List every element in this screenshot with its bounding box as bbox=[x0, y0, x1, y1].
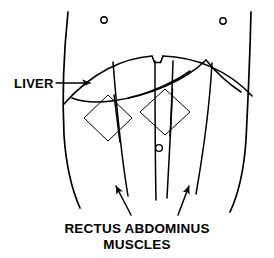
rectus-line-4-lateral-right bbox=[196, 63, 212, 194]
body-outline-left-flank bbox=[63, 12, 80, 208]
costal-margin-left-arc bbox=[64, 56, 152, 104]
body-outline-right-flank bbox=[230, 12, 251, 212]
arrow-to-right-rectus bbox=[178, 186, 189, 215]
anatomy-illustration: LIVER RECTUS ABDOMINUS MUSCLES bbox=[0, 0, 274, 258]
arrow-to-left-rectus bbox=[116, 186, 131, 215]
anatomy-figure: LIVER RECTUS ABDOMINUS MUSCLES bbox=[0, 0, 274, 258]
nipple-marker-left bbox=[101, 17, 107, 23]
navel-marker bbox=[156, 145, 163, 152]
hatch-patch-right bbox=[140, 89, 190, 135]
xiphoid-notch bbox=[152, 56, 163, 63]
rectus-label-line-1: RECTUS ABDOMINUS bbox=[64, 221, 209, 236]
rectus-label-line-2: MUSCLES bbox=[103, 237, 170, 252]
nipple-marker-right bbox=[220, 18, 226, 24]
liver-label: LIVER bbox=[14, 76, 54, 91]
rectus-line-2-linea-alba-left bbox=[155, 61, 156, 200]
